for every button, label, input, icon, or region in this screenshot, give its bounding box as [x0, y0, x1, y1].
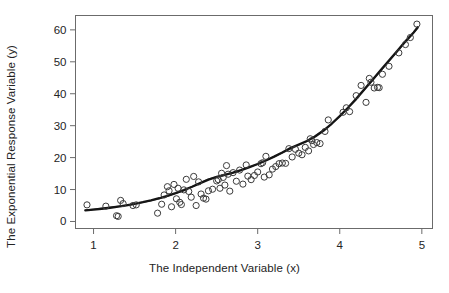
svg-text:40: 40: [54, 88, 67, 100]
svg-text:3: 3: [254, 239, 260, 251]
plot-background: [0, 0, 449, 293]
x-axis-title: The Independent Variable (x): [0, 262, 449, 274]
svg-text:5: 5: [419, 239, 425, 251]
chart-figure: 0102030405060 12345 The Independent Vari…: [0, 0, 449, 293]
svg-text:4: 4: [337, 239, 344, 251]
svg-text:20: 20: [54, 152, 67, 164]
svg-text:60: 60: [54, 24, 67, 36]
svg-text:30: 30: [54, 120, 67, 132]
svg-text:50: 50: [54, 56, 67, 68]
y-axis-title: The Exponential Response Variable (y): [0, 0, 22, 293]
svg-text:10: 10: [54, 184, 67, 196]
svg-text:1: 1: [90, 239, 96, 251]
svg-text:0: 0: [60, 215, 66, 227]
svg-text:2: 2: [172, 239, 178, 251]
scatter-plot-canvas: 0102030405060 12345: [0, 0, 449, 293]
